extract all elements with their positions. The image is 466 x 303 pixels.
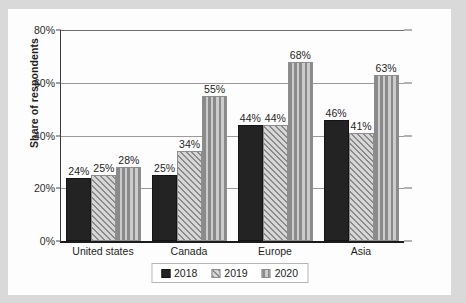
bar-canada-2019[interactable]: 34% [177,151,202,241]
bar-value-label: 41% [351,120,372,132]
bar-europe-2020[interactable]: 68% [288,62,313,241]
legend-item-2020[interactable]: 2020 [262,267,298,279]
bar-canada-2018[interactable]: 25% [152,175,177,241]
x-axis-label-united-states: United states [60,245,146,257]
bar-united-states-2018[interactable]: 24% [66,178,91,241]
legend-item-2018[interactable]: 2018 [161,267,197,279]
diagonal-hatch-swatch [211,269,220,278]
bar-europe-2019[interactable]: 44% [263,125,288,241]
x-axis-category-labels: United statesCanadaEuropeAsia [60,245,404,257]
bar-value-label: 46% [326,107,347,119]
y-tick-label-60: 60% [34,77,55,89]
x-axis-label-asia: Asia [318,245,404,257]
grouped-bar-chart: Share of respondents 80%60%40%20%0% 24%2… [8,9,451,295]
bar-value-label: 24% [68,165,89,177]
legend-label: 2018 [174,267,197,279]
legend-item-2019[interactable]: 2019 [211,267,247,279]
bar-asia-2019[interactable]: 41% [349,133,374,241]
bar-asia-2020[interactable]: 63% [374,75,399,241]
bar-europe-2018[interactable]: 44% [238,125,263,241]
x-axis-label-europe: Europe [232,245,318,257]
y-tick-mark-right-0 [404,241,412,242]
bar-value-label: 34% [179,138,200,150]
y-tick-mark-right-60 [404,82,412,83]
bar-value-label: 28% [118,154,139,166]
y-axis-title: Share of respondents [28,23,40,163]
bar-united-states-2019[interactable]: 25% [91,175,116,241]
bar-group-united-states: 24%25%28% [61,30,147,241]
bar-value-label: 55% [204,83,225,95]
y-tick-label-40: 40% [34,130,55,142]
bar-group-canada: 25%34%55% [147,30,233,241]
legend-label: 2020 [275,267,298,279]
y-tick-mark-right-40 [404,135,412,136]
bar-asia-2018[interactable]: 46% [324,120,349,241]
solid-black-swatch [161,269,170,278]
y-tick-label-80: 80% [34,24,55,36]
chart-card: Share of respondents 80%60%40%20%0% 24%2… [8,9,451,295]
chart-legend: 201820192020 [151,263,308,283]
y-tick-label-20: 20% [34,182,55,194]
bar-united-states-2020[interactable]: 28% [116,167,141,241]
y-tick-mark-right-20 [404,188,412,189]
y-tick-mark-right-80 [404,30,412,31]
bar-canada-2020[interactable]: 55% [202,96,227,241]
bar-series-container: 24%25%28%25%34%55%44%44%68%46%41%63% [61,30,404,241]
page-background: Share of respondents 80%60%40%20%0% 24%2… [0,0,466,303]
bar-group-europe: 44%44%68% [233,30,319,241]
bar-value-label: 63% [376,62,397,74]
bar-value-label: 25% [93,162,114,174]
y-tick-label-0: 0% [40,235,55,247]
legend-label: 2019 [224,267,247,279]
plot-area: 80%60%40%20%0% 24%25%28%25%34%55%44%44%6… [60,30,404,243]
bar-value-label: 44% [240,112,261,124]
bar-value-label: 25% [154,162,175,174]
bar-value-label: 68% [290,49,311,61]
bar-value-label: 44% [265,112,286,124]
bar-group-asia: 46%41%63% [318,30,404,241]
x-axis-label-canada: Canada [146,245,232,257]
vertical-stripe-swatch [262,269,271,278]
